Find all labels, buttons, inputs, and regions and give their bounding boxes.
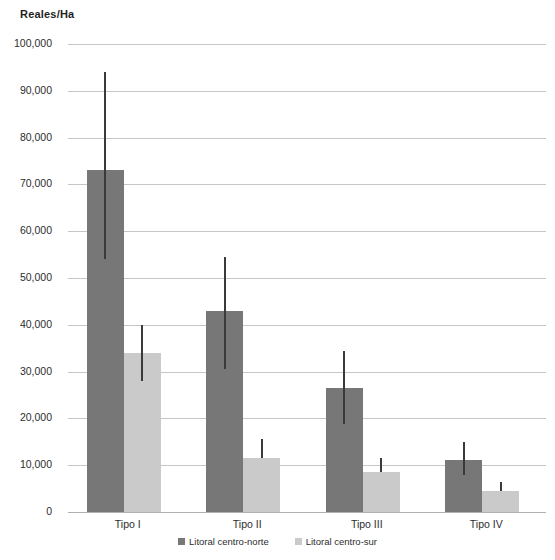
gridline [68,325,546,326]
plot-area: 100,00090,00080,00070,00060,00050,00040,… [68,44,546,512]
gridline [68,278,546,279]
legend-swatch-icon [295,538,302,545]
chart-legend: Litoral centro-norteLitoral centro-sur [0,536,555,547]
y-axis-tick-label: 50,000 [0,271,52,283]
y-axis-tick-label: 40,000 [0,318,52,330]
error-bar [104,72,106,259]
x-axis-category-label: Tipo II [188,518,308,530]
gridline [68,231,546,232]
error-bar [343,351,345,425]
bar-chart: Reales/Ha 100,00090,00080,00070,00060,00… [0,0,555,560]
gridline [68,512,546,513]
gridline [68,138,546,139]
error-bar [261,439,263,458]
y-axis-tick-label: 10,000 [0,458,52,470]
error-bar [463,442,465,475]
y-axis-tick-label: 100,000 [0,37,52,49]
y-axis-tick-label: 70,000 [0,177,52,189]
gridline [68,184,546,185]
legend-swatch-icon [178,538,185,545]
x-axis-category-label: Tipo IV [427,518,547,530]
error-bar [500,482,502,491]
legend-label: Litoral centro-sur [306,536,377,547]
error-bar [380,458,382,472]
legend-item[interactable]: Litoral centro-sur [295,536,377,547]
y-axis-title: Reales/Ha [20,8,74,20]
y-axis-tick-label: 0 [0,505,52,517]
y-axis-tick-label: 80,000 [0,131,52,143]
gridline [68,91,546,92]
y-axis-tick-label: 30,000 [0,365,52,377]
x-axis-category-label: Tipo I [68,518,188,530]
legend-item[interactable]: Litoral centro-norte [178,536,269,547]
error-bar [224,257,226,369]
y-axis-tick-label: 90,000 [0,84,52,96]
bar [243,458,280,512]
legend-label: Litoral centro-norte [189,536,269,547]
gridline [68,44,546,45]
x-axis-category-label: Tipo III [307,518,427,530]
y-axis-tick-label: 60,000 [0,224,52,236]
bar [363,472,400,512]
error-bar [141,325,143,381]
y-axis-tick-label: 20,000 [0,411,52,423]
bar [482,491,519,512]
